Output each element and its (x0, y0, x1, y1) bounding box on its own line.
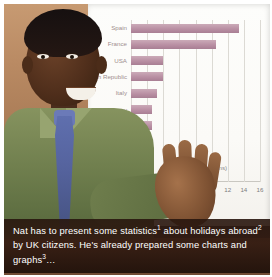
figure-container: SpainFranceUSAIrish RepublicItalyGermany… (0, 0, 272, 277)
eye-left (37, 54, 49, 59)
pupil (41, 55, 45, 59)
eye-right (66, 54, 78, 59)
hair (24, 9, 102, 57)
pupil (70, 55, 74, 59)
x-tick-label: 12 (224, 186, 231, 193)
footnote-marker: 2 (258, 224, 262, 231)
mouth (66, 88, 96, 100)
x-tick-label: 16 (257, 186, 264, 193)
x-tick-label: 14 (240, 186, 247, 193)
presenter-figure (4, 4, 154, 239)
figure-caption: Nat has to present some statistics1 abou… (4, 219, 272, 273)
footnote-marker: 1 (157, 224, 161, 231)
ear-left (22, 56, 33, 74)
gridline (260, 20, 261, 182)
footnote-marker: 3 (42, 252, 46, 259)
ear-right (96, 56, 107, 74)
